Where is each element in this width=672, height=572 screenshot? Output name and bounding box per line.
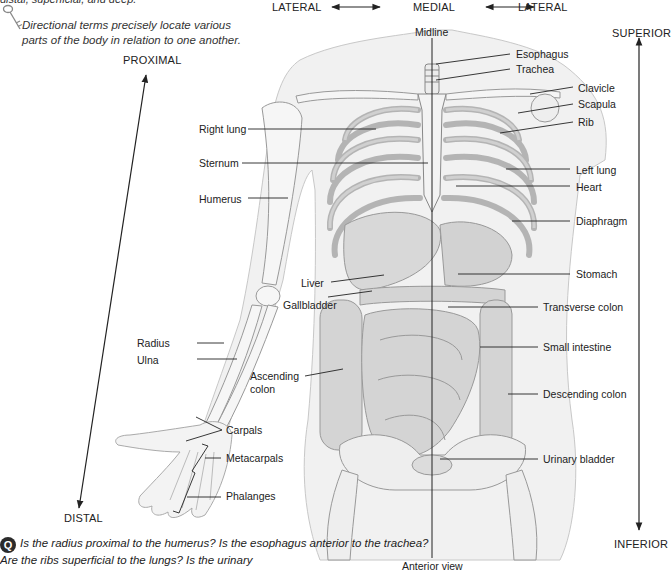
- label-ascending-colon-line1: Ascending: [250, 370, 299, 382]
- lateral-left-label: LATERAL: [272, 1, 322, 13]
- label-ascending-colon-line2: colon: [250, 383, 275, 395]
- midline-label: Midline: [415, 26, 448, 38]
- label-urinary-bladder: Urinary bladder: [543, 453, 615, 465]
- label-stomach: Stomach: [576, 268, 617, 280]
- distal-label: DISTAL: [64, 512, 103, 524]
- question-text: Is the radius proximal to the humerus? I…: [0, 537, 429, 566]
- label-rib: Rib: [578, 116, 594, 128]
- anatomy-diagram: [0, 0, 672, 572]
- label-sternum: Sternum: [199, 157, 239, 169]
- label-ulna: Ulna: [137, 354, 159, 366]
- label-right-lung: Right lung: [199, 123, 246, 135]
- intestines: [320, 286, 512, 456]
- label-left-lung: Left lung: [576, 164, 616, 176]
- label-transverse-colon: Transverse colon: [543, 301, 623, 313]
- label-diaphragm: Diaphragm: [576, 215, 627, 227]
- inferior-label: INFERIOR: [614, 538, 668, 550]
- label-metacarpals: Metacarpals: [226, 452, 283, 464]
- label-carpals: Carpals: [226, 424, 262, 436]
- proximal-label: PROXIMAL: [123, 54, 181, 66]
- label-humerus: Humerus: [199, 193, 242, 205]
- label-trachea: Trachea: [516, 63, 554, 75]
- label-descending-colon: Descending colon: [543, 388, 626, 400]
- label-scapula: Scapula: [578, 98, 616, 110]
- label-heart: Heart: [576, 181, 602, 193]
- hand: [116, 422, 232, 518]
- medial-label: MEDIAL: [413, 1, 455, 13]
- label-gallbladder: Gallbladder: [283, 299, 337, 311]
- lateral-right-label: LATERAL: [518, 1, 568, 13]
- label-liver: Liver: [301, 277, 324, 289]
- question-icon: Q: [0, 537, 16, 553]
- label-small-intestine: Small intestine: [543, 341, 611, 353]
- superior-label: SUPERIOR: [612, 27, 671, 39]
- label-esophagus: Esophagus: [516, 48, 569, 60]
- question-block: QIs the radius proximal to the humerus? …: [0, 536, 440, 568]
- label-phalanges: Phalanges: [226, 490, 276, 502]
- label-radius: Radius: [137, 337, 170, 349]
- label-clavicle: Clavicle: [578, 82, 615, 94]
